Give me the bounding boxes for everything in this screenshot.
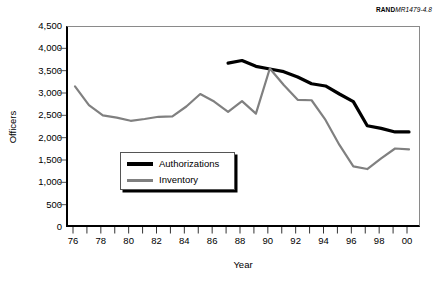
legend-item-authorizations: Authorizations <box>127 157 219 171</box>
x-tick-label: 78 <box>96 236 107 246</box>
x-tick-label: 98 <box>374 236 385 246</box>
credit-code: MR1479-4.8 <box>395 6 432 13</box>
legend-label-inventory: Inventory <box>159 175 198 185</box>
x-tick-label: 94 <box>318 236 329 246</box>
legend-label-authorizations: Authorizations <box>159 159 219 169</box>
x-tick-label: 76 <box>68 236 79 246</box>
legend-swatch-inventory <box>127 179 153 182</box>
x-tick-label: 88 <box>235 236 246 246</box>
chart-legend: Authorizations Inventory <box>120 152 235 190</box>
x-tick-label: 82 <box>151 236 162 246</box>
x-axis-title: Year <box>233 259 252 270</box>
x-tick-label: 00 <box>402 236 413 246</box>
credit-rand: RAND <box>376 6 395 13</box>
chart-figure: RANDMR1479-4.8 Officers 05001,0001,5002,… <box>0 0 440 282</box>
x-tick-label: 84 <box>179 236 190 246</box>
series-lines <box>68 27 422 228</box>
x-tick-label: 86 <box>207 236 218 246</box>
legend-swatch-authorizations <box>127 162 153 166</box>
x-axis-tick-labels: 76788082848688909294969800 <box>0 236 440 250</box>
x-tick-label: 96 <box>346 236 357 246</box>
x-tick-label: 90 <box>263 236 274 246</box>
legend-item-inventory: Inventory <box>127 173 198 187</box>
source-credit: RANDMR1479-4.8 <box>376 7 432 14</box>
plot-area <box>66 26 420 227</box>
x-tick-label: 80 <box>123 236 134 246</box>
x-tick-label: 92 <box>290 236 301 246</box>
